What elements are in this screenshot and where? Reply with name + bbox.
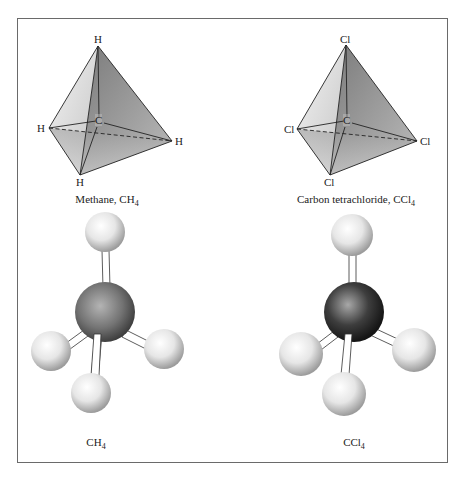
cl-atom-top — [331, 214, 373, 256]
ccl4-ball-stick-model — [279, 214, 436, 416]
c-atom-center — [324, 282, 384, 342]
atom-label-right: Cl — [420, 135, 430, 147]
ccl4-caption: Carbon tetrachloride, CCl4 — [297, 193, 415, 205]
h-atom-top — [85, 212, 125, 252]
cl-atom-bottom — [322, 372, 366, 416]
cl-atom-left — [279, 332, 323, 376]
methane-ball-stick-model — [31, 212, 184, 413]
atom-label-top: H — [94, 33, 102, 45]
h-atom-right — [144, 329, 184, 369]
atom-label-bottom: Cl — [324, 176, 334, 188]
c-atom-center — [75, 282, 135, 342]
atom-label-bottom: H — [76, 176, 84, 188]
methane-tetrahedron — [49, 46, 172, 175]
molecule-diagram — [0, 0, 467, 479]
atom-label-center: C — [343, 114, 350, 126]
methane-model-caption: CH4 — [86, 436, 105, 448]
atom-label-right: H — [175, 135, 183, 147]
ccl4-tetrahedron — [297, 45, 417, 175]
atom-label-left: Cl — [284, 123, 294, 135]
h-atom-left — [31, 331, 71, 371]
atom-label-center: C — [95, 114, 102, 126]
ccl4-model-caption: CCl4 — [343, 436, 365, 448]
atom-label-top: Cl — [340, 33, 350, 45]
methane-caption: Methane, CH4 — [75, 193, 138, 205]
cl-atom-right — [392, 328, 436, 372]
h-atom-bottom — [71, 373, 111, 413]
atom-label-left: H — [37, 122, 45, 134]
